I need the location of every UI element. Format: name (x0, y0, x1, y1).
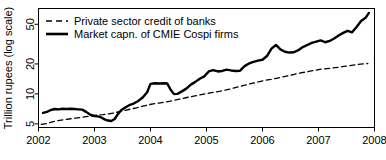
y-tick-label: 50 (24, 18, 36, 30)
y-tick-label: 20 (24, 58, 36, 70)
x-tick-label: 2007 (306, 134, 330, 146)
x-tick-label: 2008 (362, 134, 386, 146)
chart-figure: 5102050 2002200320042005200620072008 Tri… (0, 0, 386, 160)
y-tick-label: 10 (24, 88, 36, 100)
x-tick-label: 2004 (138, 134, 162, 146)
y-axis-title: Trillion rupees (log scale) (2, 7, 14, 129)
x-tick-label: 2006 (250, 134, 274, 146)
x-tick-label: 2003 (82, 134, 106, 146)
x-tick-label: 2005 (194, 134, 218, 146)
chart-legend: Private sector credit of banksMarket cap… (46, 15, 239, 40)
legend-label-2: Market capn. of CMIE Cospi firms (74, 28, 239, 40)
x-axis-ticks: 2002200320042005200620072008 (26, 128, 386, 146)
y-axis-ticks: 5102050 (24, 18, 39, 127)
x-tick-label: 2002 (26, 134, 50, 146)
legend-label-1: Private sector credit of banks (74, 15, 216, 27)
line-chart: 5102050 2002200320042005200620072008 Tri… (0, 0, 386, 160)
y-tick-label: 5 (24, 121, 36, 127)
